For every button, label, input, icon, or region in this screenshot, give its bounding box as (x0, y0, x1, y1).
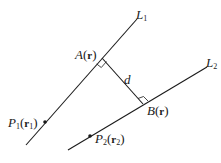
label-p2-sub: 2 (103, 138, 107, 147)
label-p1: P1(r1) (8, 116, 38, 131)
label-l2-sub: 2 (213, 62, 217, 71)
label-p2-vec-sub: 2 (116, 138, 120, 147)
line-l1 (26, 19, 137, 145)
label-a-vec: r (87, 49, 92, 61)
label-p2: P2(r2) (95, 132, 125, 147)
label-b: B(r) (147, 104, 169, 117)
label-p1-sub: 1 (16, 122, 20, 131)
label-a: A(r) (75, 48, 97, 61)
line-l2 (68, 67, 207, 150)
point-p1-dot (43, 120, 47, 124)
label-d: d (124, 73, 131, 86)
label-p1-name: P (8, 115, 16, 130)
label-p2-name: P (95, 131, 103, 146)
label-l1: L1 (136, 8, 147, 23)
label-b-vec: r (159, 105, 164, 117)
point-p2-dot (88, 134, 92, 138)
label-a-name: A (75, 47, 83, 62)
label-l1-sub: 1 (143, 14, 147, 23)
label-b-name: B (147, 103, 155, 118)
label-p1-vec-sub: 1 (29, 122, 33, 131)
perpendicular-d (102, 58, 143, 104)
label-l2: L2 (206, 56, 217, 71)
